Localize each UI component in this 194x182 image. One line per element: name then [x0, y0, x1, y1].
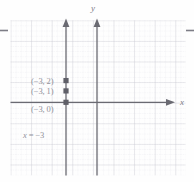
point-label-neg3-2: (−3, 2)	[31, 76, 54, 86]
equation-label: x = −3	[23, 130, 44, 140]
x-axis-label: x	[180, 97, 184, 107]
point-marker-neg3-0	[63, 100, 68, 105]
y-axis-label: y	[91, 3, 95, 13]
point-marker-neg3-2	[63, 78, 68, 83]
point-label-neg3-1: (−3, 1)	[31, 86, 54, 96]
graph-figure: (−3, 2) (−3, 1) (−3, 0) x = −3 y x	[0, 0, 194, 182]
major-gridlines	[11, 20, 186, 175]
point-label-neg3-0: (−3, 0)	[31, 104, 54, 114]
equation-value: = −3	[27, 130, 45, 140]
point-marker-neg3-1	[63, 88, 68, 93]
coordinate-plane-svg	[0, 0, 194, 182]
